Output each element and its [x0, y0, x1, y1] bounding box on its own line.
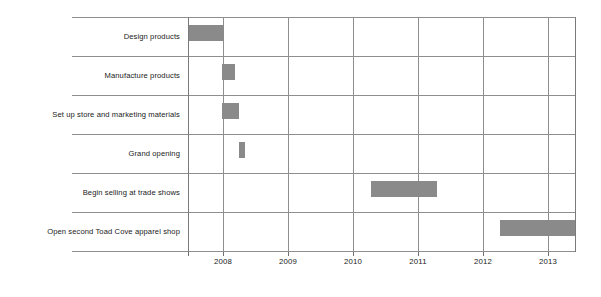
axis-tick-start: [188, 252, 189, 256]
axis-label-2013: 2013: [539, 258, 557, 266]
gridline-2012: [483, 17, 484, 252]
gantt-bar-grand-opening: [239, 142, 245, 158]
row-divider: [72, 173, 575, 174]
gantt-chart: Design products Manufacture products Set…: [0, 0, 601, 297]
plot-left-edge: [188, 17, 189, 252]
row-divider: [72, 56, 575, 57]
task-label-grand-opening: Grand opening: [128, 150, 180, 158]
axis-tick-2009: [288, 252, 289, 256]
row-divider: [72, 212, 575, 213]
axis-label-2010: 2010: [344, 258, 362, 266]
gantt-bar-open-second-toad-cove-apparel-shop: [500, 220, 575, 236]
gridline-2011: [418, 17, 419, 252]
task-label-manufacture-products: Manufacture products: [105, 72, 180, 80]
row-divider: [72, 251, 575, 252]
axis-label-2012: 2012: [474, 258, 492, 266]
task-label-set-up-store-and-marketing-materials: Set up store and marketing materials: [52, 111, 180, 119]
axis-tick-2010: [353, 252, 354, 256]
gridline-2008: [223, 17, 224, 252]
axis-tick-2013: [548, 252, 549, 256]
axis-tick-2008: [223, 252, 224, 256]
gantt-bar-design-products: [189, 25, 224, 41]
task-label-open-second-toad-cove-apparel-shop: Open second Toad Cove apparel shop: [47, 228, 180, 236]
axis-label-2009: 2009: [279, 258, 297, 266]
task-label-design-products: Design products: [124, 33, 180, 41]
gridline-2009: [288, 17, 289, 252]
task-label-begin-selling-at-trade-shows: Begin selling at trade shows: [83, 189, 180, 197]
row-divider: [72, 17, 575, 18]
row-divider: [72, 134, 575, 135]
gridline-2010: [353, 17, 354, 252]
axis-label-2011: 2011: [409, 258, 427, 266]
row-divider: [72, 95, 575, 96]
gridline-2013: [548, 17, 549, 252]
axis-tick-2012: [483, 252, 484, 256]
axis-tick-2011: [418, 252, 419, 256]
axis-label-2008: 2008: [214, 258, 232, 266]
gantt-bar-set-up-store-and-marketing-materials: [222, 103, 239, 119]
plot-right-edge: [575, 17, 576, 252]
gantt-bar-manufacture-products: [222, 64, 235, 80]
gantt-bar-begin-selling-at-trade-shows: [371, 181, 437, 197]
